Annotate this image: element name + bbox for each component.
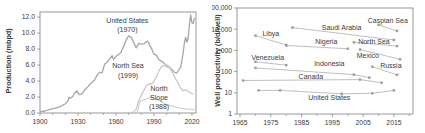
production-axis-label: Production (mbpd) bbox=[4, 32, 13, 94]
x-tick-label: 1995 bbox=[325, 119, 340, 126]
oil-production-figure: 190019301960199020200.02.04.06.08.010.01… bbox=[0, 0, 425, 133]
data-point-marker bbox=[396, 45, 398, 47]
y-tick-label: 10.0 bbox=[22, 29, 35, 36]
y-tick-label: 100 bbox=[221, 68, 233, 75]
x-tick-label: 1960 bbox=[108, 118, 123, 125]
x-tick-label: 1900 bbox=[32, 118, 47, 125]
annotation-venezuela-label: Venezuela bbox=[251, 54, 284, 61]
x-tick-label: 1990 bbox=[146, 118, 161, 125]
annotation-text: United States bbox=[106, 17, 149, 24]
annotation-nigeria-label: Nigeria bbox=[315, 38, 337, 46]
annotation-text: Nigeria bbox=[315, 38, 337, 46]
annotation-saudi-arabia-label: Saudi Arabia bbox=[322, 24, 362, 31]
annotation-text: Venezuela bbox=[251, 54, 284, 61]
y-tick-label: 4.0 bbox=[26, 77, 36, 84]
annotation-text: (1970) bbox=[117, 26, 137, 34]
series-line bbox=[379, 25, 398, 31]
annotation-libya-label: Libya bbox=[262, 30, 279, 38]
annotation-text: Slope bbox=[150, 94, 168, 102]
annotation-text: Russia bbox=[380, 62, 402, 69]
data-point-marker bbox=[347, 48, 349, 50]
series-line bbox=[286, 46, 348, 49]
x-tick-label: 1985 bbox=[294, 119, 309, 126]
data-point-marker bbox=[371, 92, 373, 94]
data-point-marker bbox=[285, 44, 287, 46]
annotation-text: North Sea bbox=[358, 38, 390, 45]
production-history-chart: 190019301960199020200.02.04.06.08.010.01… bbox=[0, 0, 212, 133]
series-line bbox=[256, 62, 287, 65]
annotation-canada-label: Canada bbox=[299, 73, 324, 80]
annotation-north-slope-1988: NorthSlope(1988) bbox=[149, 85, 169, 111]
y-tick-label: 6.0 bbox=[26, 61, 36, 68]
axes: 190019301960199020200.02.04.06.08.010.01… bbox=[22, 13, 200, 125]
annotation-north-sea-1999: North Sea(1999) bbox=[112, 62, 144, 79]
annotation-text: Libya bbox=[262, 30, 279, 38]
data-point-marker bbox=[359, 78, 361, 80]
well-productivity-chart: 1965197519851995200520151101001,00010,00… bbox=[212, 0, 425, 133]
well-productivity-axis-label: Well productivity (b/d/well) bbox=[213, 11, 222, 111]
data-point-marker bbox=[396, 74, 398, 76]
annotation-united-states-label: United States bbox=[308, 94, 351, 101]
y-tick-label: 8.0 bbox=[26, 45, 36, 52]
data-point-marker bbox=[380, 81, 382, 83]
annotation-text: North bbox=[150, 85, 167, 92]
data-point-marker bbox=[254, 34, 256, 36]
annotation-caspian-sea-label: Caspian Sea bbox=[368, 17, 408, 25]
annotation-text: (1999) bbox=[118, 72, 138, 80]
data-point-marker bbox=[242, 79, 244, 81]
annotation-north-sea-label: North Sea bbox=[358, 38, 390, 45]
data-point-marker bbox=[254, 67, 256, 69]
y-tick-label: 10 bbox=[224, 89, 232, 96]
data-point-marker bbox=[399, 58, 401, 60]
annotation-text: Canada bbox=[299, 73, 324, 80]
annotation-text: Mexico bbox=[357, 52, 379, 59]
y-tick-label: 2.0 bbox=[26, 93, 36, 100]
data-point-marker bbox=[393, 89, 395, 91]
x-tick-label: 1930 bbox=[70, 118, 85, 125]
data-point-marker bbox=[371, 66, 373, 68]
x-tick-label: 2020 bbox=[184, 118, 199, 125]
data-point-marker bbox=[257, 89, 259, 91]
annotation-russia-label: Russia bbox=[380, 62, 402, 69]
data-point-marker bbox=[353, 73, 355, 75]
annotation-text: (1988) bbox=[149, 103, 169, 111]
data-point-marker bbox=[368, 76, 370, 78]
series-venezuela bbox=[254, 61, 287, 67]
annotation-text: Indonesia bbox=[314, 60, 344, 67]
data-point-marker bbox=[291, 26, 293, 28]
data-point-marker bbox=[396, 30, 398, 32]
annotation-mexico-label: Mexico bbox=[357, 52, 379, 59]
annotation-indonesia-label: Indonesia bbox=[314, 60, 344, 67]
data-point-marker bbox=[393, 39, 395, 41]
series-line bbox=[256, 36, 287, 45]
annotation-text: Saudi Arabia bbox=[322, 24, 362, 31]
data-point-marker bbox=[285, 64, 287, 66]
annotation-text: North Sea bbox=[112, 62, 144, 69]
annotation-text: United States bbox=[308, 94, 351, 101]
x-tick-label: 2005 bbox=[356, 119, 371, 126]
series-caspian-sea bbox=[377, 24, 398, 32]
x-tick-label: 1965 bbox=[233, 119, 248, 126]
x-tick-label: 1975 bbox=[263, 119, 278, 126]
y-tick-label: 1 bbox=[228, 110, 232, 117]
data-point-marker bbox=[377, 24, 379, 26]
annotation-united-states-1970: United States(1970) bbox=[106, 17, 149, 34]
data-point-marker bbox=[279, 89, 281, 91]
data-point-marker bbox=[359, 48, 361, 50]
y-tick-label: 12.0 bbox=[22, 13, 35, 20]
x-tick-label: 2015 bbox=[386, 119, 401, 126]
data-point-marker bbox=[353, 41, 355, 43]
annotation-text: Caspian Sea bbox=[368, 17, 408, 25]
y-tick-label: 0.0 bbox=[26, 109, 36, 116]
